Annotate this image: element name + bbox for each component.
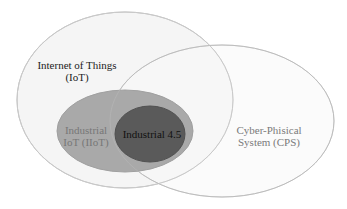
iiot-label-line1: Industrial — [63, 124, 108, 136]
iot-label-line2: (IoT) — [37, 71, 116, 83]
cps-label-line2: System (CPS) — [236, 136, 301, 148]
iiot-label-line2: IoT (IIoT) — [63, 136, 108, 148]
iot-label-line1: Internet of Things — [37, 59, 116, 71]
iiot-label: Industrial IoT (IIoT) — [63, 124, 108, 148]
industrial45-label: Industrial 4.5 — [123, 128, 182, 140]
cps-label: Cyber-Phisical System (CPS) — [236, 124, 301, 148]
venn-diagram — [0, 0, 347, 209]
iot-label: Internet of Things (IoT) — [37, 59, 116, 83]
cps-label-line1: Cyber-Phisical — [236, 124, 301, 136]
industrial45-label-line1: Industrial 4.5 — [123, 128, 182, 140]
